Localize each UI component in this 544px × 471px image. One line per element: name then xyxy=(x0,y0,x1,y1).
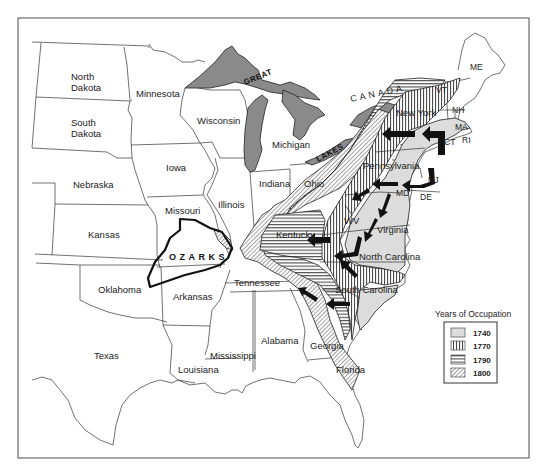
label-north-dakota-1: North xyxy=(71,71,94,82)
label-south-dakota-2: Dakota xyxy=(71,128,102,139)
label-oklahoma: Oklahoma xyxy=(98,284,142,295)
label-minnesota: Minnesota xyxy=(136,88,181,99)
label-georgia: Georgia xyxy=(310,340,345,351)
label-ohio: Ohio xyxy=(304,178,324,189)
label-wv: WV xyxy=(344,215,360,226)
legend-label-1770: 1770 xyxy=(473,342,491,351)
label-ri: RI xyxy=(462,135,471,145)
label-alabama: Alabama xyxy=(261,335,299,346)
legend: Years of Occupation 1740 1770 1790 1800 xyxy=(435,309,512,383)
label-texas: Texas xyxy=(94,350,119,361)
legend-label-1740: 1740 xyxy=(473,329,491,338)
label-arkansas: Arkansas xyxy=(173,291,213,302)
label-iowa: Iowa xyxy=(166,162,187,173)
legend-swatch-1740 xyxy=(451,328,465,337)
label-nh: NH xyxy=(452,105,464,115)
legend-title: Years of Occupation xyxy=(435,309,512,319)
label-kentucky: Kentucky xyxy=(276,229,315,240)
label-pennsylvania: Pennsylvania xyxy=(363,160,420,171)
label-ozarks: OZARKS xyxy=(169,252,228,262)
label-illinois: Illinois xyxy=(218,199,245,210)
label-nebraska: Nebraska xyxy=(73,179,114,190)
label-de: DE xyxy=(420,192,432,202)
label-indiana: Indiana xyxy=(259,178,291,189)
label-tennessee: Tennessee xyxy=(234,277,280,288)
label-kansas: Kansas xyxy=(88,229,120,240)
label-michigan: Michigan xyxy=(272,139,310,150)
label-vt: VT xyxy=(436,85,447,95)
label-florida: Florida xyxy=(336,364,366,375)
label-new-york: New York xyxy=(396,107,436,118)
label-canada: CANADA xyxy=(349,83,405,104)
label-louisiana: Louisiana xyxy=(178,364,219,375)
label-north-carolina: North Carolina xyxy=(359,251,421,262)
label-missouri: Missouri xyxy=(165,205,200,216)
label-north-dakota-2: Dakota xyxy=(71,82,102,93)
label-south-carolina: South Carolina xyxy=(335,284,399,295)
label-ct: CT xyxy=(444,137,455,147)
legend-label-1800: 1800 xyxy=(473,369,491,378)
label-me: ME xyxy=(470,62,483,72)
label-nj: NJ xyxy=(428,175,438,185)
lake-superior xyxy=(185,46,320,100)
legend-swatch-1800 xyxy=(451,368,465,377)
label-south-dakota-1: South xyxy=(71,117,96,128)
legend-swatch-1770 xyxy=(451,341,465,350)
legend-label-1790: 1790 xyxy=(473,356,491,365)
label-md: MD xyxy=(396,188,409,198)
legend-swatch-1790 xyxy=(451,355,465,364)
label-ma: MA xyxy=(455,122,468,132)
lake-michigan xyxy=(244,95,268,172)
label-mississippi: Mississippi xyxy=(210,350,256,361)
label-wisconsin: Wisconsin xyxy=(197,115,240,126)
label-virginia: Virginia xyxy=(377,224,409,235)
occupation-map: GREAT LAKES xyxy=(0,0,544,471)
